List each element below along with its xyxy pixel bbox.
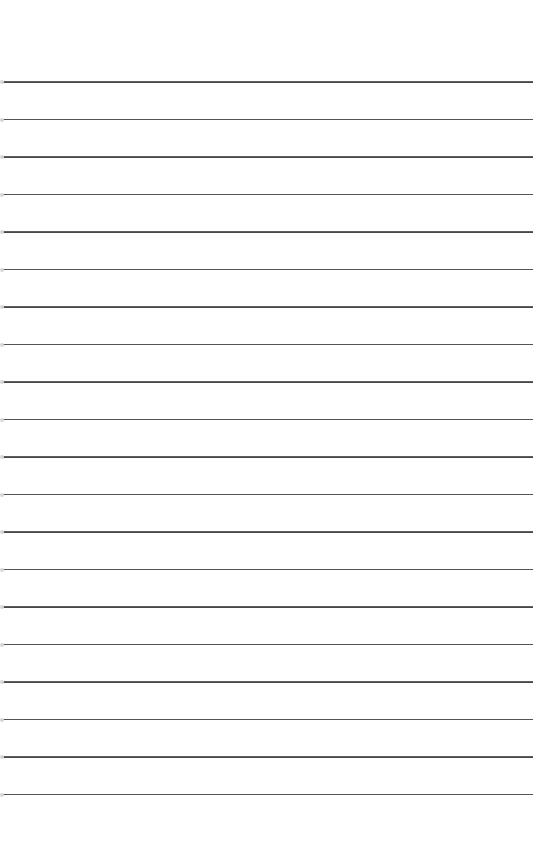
ruled-line — [3, 794, 533, 796]
ruled-line — [3, 681, 533, 683]
ruled-line — [3, 194, 533, 196]
ruled-line — [3, 119, 533, 121]
ruled-line — [3, 719, 533, 721]
ruled-line — [3, 456, 533, 458]
ruled-line — [3, 344, 533, 346]
ruled-line — [3, 269, 533, 271]
ruled-line — [3, 644, 533, 646]
ruled-line — [3, 231, 533, 233]
lined-paper-page — [0, 0, 535, 866]
ruled-line — [3, 606, 533, 608]
ruled-line — [3, 381, 533, 383]
ruled-line — [3, 306, 533, 308]
ruled-line — [3, 531, 533, 533]
ruled-line — [3, 756, 533, 758]
ruled-line — [3, 156, 533, 158]
ruled-line — [3, 494, 533, 496]
ruled-line — [3, 569, 533, 571]
ruled-line — [3, 419, 533, 421]
ruled-line — [3, 81, 533, 83]
